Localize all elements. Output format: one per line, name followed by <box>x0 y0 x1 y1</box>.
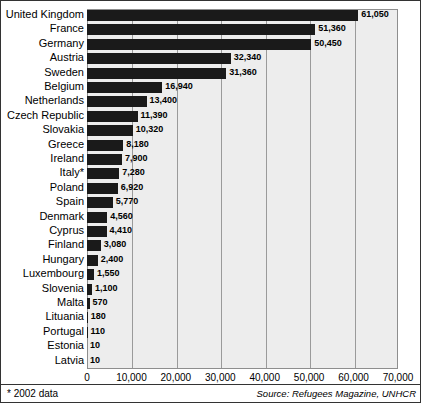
bar <box>87 226 107 237</box>
bar-row: Belgium16,940 <box>1 82 421 93</box>
bar-value-label: 180 <box>91 311 106 322</box>
category-label: Luxembourg <box>0 267 84 280</box>
category-label: Cyprus <box>0 224 84 237</box>
bar-row: Lituania180 <box>1 312 421 323</box>
bar <box>87 284 92 295</box>
category-label: Finland <box>0 238 84 251</box>
x-tick-label: 50,000 <box>294 372 325 383</box>
bar-row: Italy*7,280 <box>1 168 421 179</box>
bar-value-label: 4,410 <box>110 225 133 236</box>
category-label: Slovenia <box>0 282 84 295</box>
bar <box>87 10 358 21</box>
category-label: Estonia <box>0 339 84 352</box>
bar <box>87 255 98 266</box>
bar-row: Spain5,770 <box>1 197 421 208</box>
category-label: Germany <box>0 37 84 50</box>
bar-row: Portugal110 <box>1 327 421 338</box>
bar-value-label: 50,450 <box>314 38 342 49</box>
x-tick-label: 0 <box>84 372 90 383</box>
bar <box>87 240 101 251</box>
category-label: Austria <box>0 51 84 64</box>
category-label: Portugal <box>0 325 84 338</box>
footnote: * 2002 data <box>7 388 58 399</box>
bar-row: Slovakia10,320 <box>1 125 421 136</box>
bar-rows: United Kingdom61,050France51,360Germany5… <box>1 9 421 369</box>
bar-row: Estonia10 <box>1 341 421 352</box>
chart-footer: * 2002 data Source: Refugees Magazine, U… <box>1 384 421 402</box>
bar-value-label: 13,400 <box>150 95 178 106</box>
bar <box>87 125 133 136</box>
bar <box>87 24 315 35</box>
bar-value-label: 570 <box>93 297 108 308</box>
bar <box>87 212 107 223</box>
bar-value-label: 1,100 <box>95 283 118 294</box>
bar-row: Latvia10 <box>1 356 421 367</box>
bar-row: Malta570 <box>1 298 421 309</box>
bar <box>87 183 118 194</box>
bar-row: United Kingdom61,050 <box>1 10 421 21</box>
bar <box>87 154 122 165</box>
bar-value-label: 51,360 <box>318 23 346 34</box>
category-label: Spain <box>0 195 84 208</box>
bar-value-label: 10 <box>90 355 100 366</box>
bar <box>87 312 88 323</box>
bar-row: Poland6,920 <box>1 183 421 194</box>
bar <box>87 140 123 151</box>
bar-value-label: 10 <box>90 340 100 351</box>
x-tick-label: 40,000 <box>249 372 280 383</box>
bar-row: Hungary2,400 <box>1 255 421 266</box>
bar <box>87 39 311 50</box>
bar <box>87 82 162 93</box>
bar <box>87 68 226 79</box>
bar-value-label: 31,360 <box>229 67 257 78</box>
category-label: Hungary <box>0 253 84 266</box>
bar <box>87 53 231 64</box>
category-label: Latvia <box>0 354 84 367</box>
bar <box>87 269 94 280</box>
bar <box>87 111 138 122</box>
bar-row: Sweden31,360 <box>1 68 421 79</box>
bar-row: Luxembourg1,550 <box>1 269 421 280</box>
category-label: Lituania <box>0 310 84 323</box>
source-credit: Source: Refugees Magazine, UNHCR <box>257 388 416 399</box>
bar-value-label: 7,280 <box>122 167 145 178</box>
bar-value-label: 16,940 <box>165 81 193 92</box>
bar-row: Denmark4,560 <box>1 212 421 223</box>
bar-row: Cyprus4,410 <box>1 226 421 237</box>
bar-value-label: 7,900 <box>125 153 148 164</box>
bar-row: Netherlands13,400 <box>1 96 421 107</box>
bar-row: Finland3,080 <box>1 240 421 251</box>
bar <box>87 96 147 107</box>
x-tick-label: 10,000 <box>116 372 147 383</box>
bar <box>87 298 90 309</box>
bar-value-label: 3,080 <box>104 239 127 250</box>
x-tick-label: 20,000 <box>161 372 192 383</box>
bar <box>87 197 113 208</box>
category-label: Ireland <box>0 152 84 165</box>
category-label: Sweden <box>0 66 84 79</box>
bar-value-label: 110 <box>90 326 105 337</box>
bar-row: Germany50,450 <box>1 39 421 50</box>
category-label: Greece <box>0 138 84 151</box>
category-label: Malta <box>0 296 84 309</box>
category-label: United Kingdom <box>0 8 84 21</box>
category-label: Czech Republic <box>0 109 84 122</box>
category-label: Italy* <box>0 166 84 179</box>
x-tick-label: 30,000 <box>205 372 236 383</box>
category-label: France <box>0 22 84 35</box>
bar-row: Austria32,340 <box>1 53 421 64</box>
bar-value-label: 10,320 <box>136 124 164 135</box>
bar-value-label: 2,400 <box>101 254 124 265</box>
bar-value-label: 61,050 <box>361 9 389 20</box>
chart-figure: United Kingdom61,050France51,360Germany5… <box>0 0 421 403</box>
category-label: Poland <box>0 181 84 194</box>
category-label: Denmark <box>0 210 84 223</box>
chart-plot-area: United Kingdom61,050France51,360Germany5… <box>1 1 421 374</box>
category-label: Belgium <box>0 80 84 93</box>
bar-value-label: 1,550 <box>97 268 120 279</box>
bar-value-label: 4,560 <box>110 211 133 222</box>
bar-value-label: 5,770 <box>116 196 139 207</box>
category-label: Netherlands <box>0 94 84 107</box>
bar <box>87 168 119 179</box>
x-tick-label: 70,000 <box>383 372 414 383</box>
